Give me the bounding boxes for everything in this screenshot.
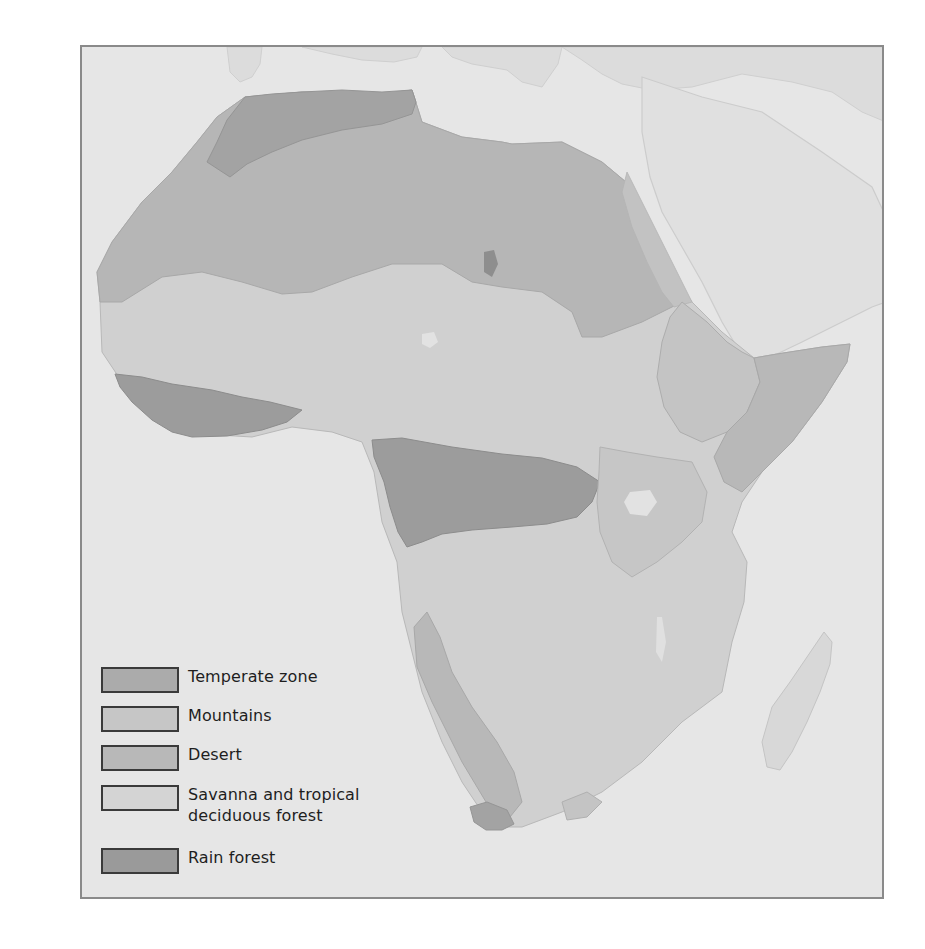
map-frame: Temperate zone Mountains Desert Savanna … <box>80 45 884 899</box>
africa-map <box>82 47 882 897</box>
legend-label: Desert <box>188 745 242 765</box>
legend-label: Savanna and tropical <box>188 785 360 805</box>
legend-label-line2: deciduous forest <box>188 806 323 826</box>
legend-label: Rain forest <box>188 848 275 868</box>
madagascar <box>762 632 832 770</box>
legend-label: Temperate zone <box>188 667 318 687</box>
legend-swatch-desert <box>101 745 179 771</box>
legend-swatch-mountains <box>101 706 179 732</box>
legend-swatch-savanna <box>101 785 179 811</box>
legend-label: Mountains <box>188 706 272 726</box>
legend-swatch-temperate-zone <box>101 667 179 693</box>
legend-swatch-rain-forest <box>101 848 179 874</box>
